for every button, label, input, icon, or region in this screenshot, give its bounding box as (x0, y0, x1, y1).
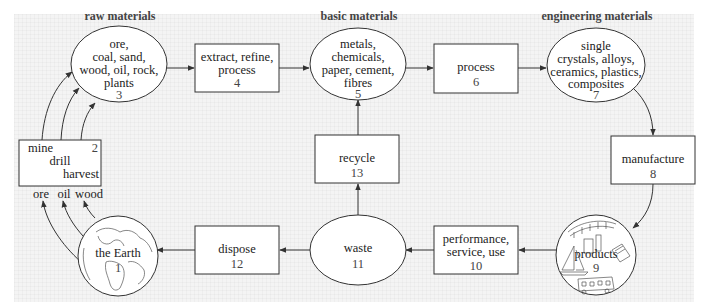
node-raw-line: ore, (109, 37, 128, 51)
node-recycle: recycle 13 (315, 135, 399, 183)
node-manufacture-line: manufacture (622, 152, 685, 166)
edge-earth-oil (63, 201, 83, 236)
node-extract-line: extract, refine, (201, 50, 274, 64)
node-basic-materials: metals, chemicals, paper, cement, fibres… (310, 28, 406, 101)
edge-engineering-to-manufacture (633, 88, 653, 135)
node-basic-line: paper, cement, (322, 63, 395, 77)
node-mine-drill-harvest: mine drill harvest 2 (19, 140, 101, 186)
node-dispose-line: dispose (218, 242, 256, 256)
diagram-svg: raw materials basic materials engineerin… (0, 0, 712, 302)
node-engineering-materials: single crystals, alloys, ceramics, plast… (547, 28, 645, 102)
node-earth: the Earth 1 (78, 216, 158, 296)
node-products-line: products (574, 247, 617, 261)
node-recycle-line: recycle (339, 151, 376, 165)
node-mine-line: harvest (63, 167, 100, 181)
node-engineering-number: 7 (593, 88, 599, 102)
materials-cycle-diagram: raw materials basic materials engineerin… (0, 0, 712, 302)
node-basic-number: 5 (355, 87, 361, 101)
label-wood: wood (75, 187, 104, 201)
node-products: products 9 (556, 215, 636, 295)
node-raw-materials: ore, coal, sand, wood, oil, rock, plants… (71, 26, 167, 102)
edge-earth-wood (84, 201, 95, 218)
node-dispose: dispose 12 (195, 226, 279, 274)
node-raw-number: 3 (116, 88, 122, 102)
node-raw-line: wood, oil, rock, (80, 63, 159, 77)
node-basic-line: chemicals, (331, 50, 384, 64)
edge-earth-ore (43, 201, 81, 262)
node-extract-number: 4 (234, 76, 241, 90)
label-oil: oil (57, 187, 71, 201)
node-extract-line: process (218, 63, 256, 77)
header-basic-materials: basic materials (321, 9, 398, 23)
node-engineering-line: single (581, 39, 611, 53)
node-manufacture-number: 8 (650, 167, 656, 181)
node-recycle-number: 13 (351, 166, 364, 180)
node-process: process 6 (434, 44, 518, 93)
edge-mine-to-raw-3 (81, 103, 95, 140)
node-waste-line: waste (344, 241, 373, 255)
node-process-number: 6 (473, 75, 479, 89)
header-raw-materials: raw materials (85, 9, 156, 23)
node-mine-line: mine (28, 141, 53, 155)
node-performance-line: performance, (443, 232, 509, 246)
node-products-number: 9 (593, 261, 599, 275)
node-process-line: process (457, 60, 495, 74)
node-earth-line: the Earth (95, 246, 141, 260)
edge-manufacture-to-products (633, 184, 653, 228)
node-mine-number: 2 (92, 141, 98, 155)
node-performance-line: service, use (447, 245, 506, 259)
node-engineering-line: crystals, alloys, (557, 52, 634, 66)
node-mine-line: drill (50, 154, 71, 168)
node-basic-line: metals, (340, 37, 376, 51)
node-performance-service-use: performance, service, use 10 (434, 226, 518, 274)
node-extract-refine-process: extract, refine, process 4 (195, 44, 279, 92)
header-engineering-materials: engineering materials (542, 9, 653, 23)
node-waste: waste 11 (310, 215, 406, 285)
node-dispose-number: 12 (231, 257, 244, 271)
node-earth-number: 1 (115, 261, 121, 275)
node-raw-line: coal, sand, (92, 50, 145, 64)
node-performance-number: 10 (470, 259, 483, 273)
node-waste-number: 11 (352, 257, 364, 271)
edge-mine-to-raw-2 (61, 88, 79, 140)
label-ore: ore (33, 187, 49, 201)
node-manufacture: manufacture 8 (611, 136, 695, 184)
